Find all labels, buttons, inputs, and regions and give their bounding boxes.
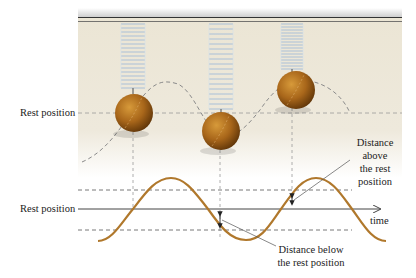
time-axis-label: time (370, 214, 389, 227)
spring-oscillation-diagram: Rest position Rest position time Distanc… (0, 0, 416, 278)
rest-position-label-bottom: Rest position (20, 202, 75, 215)
distance-above-label: Distance above the rest position (350, 136, 400, 188)
distance-below-label: Distance below the rest position (268, 243, 354, 269)
rest-position-label-top: Rest position (20, 106, 75, 119)
